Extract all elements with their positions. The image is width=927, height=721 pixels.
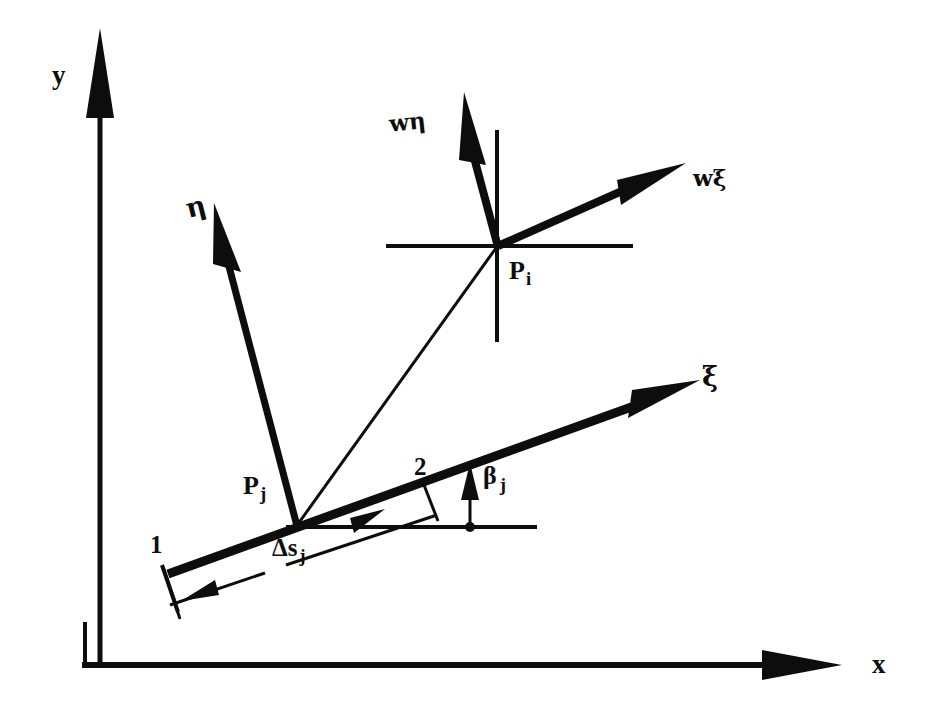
- point-pj-subscript: j: [259, 483, 266, 504]
- delta-s-arrowhead-left: [181, 580, 219, 601]
- y-axis-arrowhead: [86, 28, 114, 118]
- diagram-canvas: y x η ξ wη wξ Pi Pj 1 2 Δsj βj: [0, 0, 927, 721]
- w-xi-shaft: [498, 187, 631, 246]
- delta-s-subscript: j: [297, 546, 305, 566]
- point-pi-subscript: i: [525, 268, 531, 289]
- delta-s-arrowhead-right: [350, 509, 385, 533]
- delta-s-text: Δs: [272, 534, 297, 561]
- point-pj-letter: P: [243, 471, 259, 500]
- diagram-vector-layer: [0, 0, 927, 721]
- node-2-label: 2: [414, 454, 427, 479]
- x-axis-arrowhead: [762, 650, 842, 680]
- w-eta-vector-label: wη: [388, 108, 427, 135]
- y-axis-label: y: [52, 62, 66, 89]
- point-pi-label: Pi: [509, 258, 531, 289]
- w-xi-vector-group: [498, 163, 686, 246]
- panel-j-thick-segment: [168, 401, 648, 574]
- pi-local-axes-group: [386, 130, 633, 342]
- w-eta-arrowhead: [459, 92, 486, 165]
- beta-subscript: j: [497, 474, 506, 495]
- point-pj-label: Pj: [243, 473, 266, 504]
- node-1-extension-tick: [166, 576, 180, 619]
- x-axis-label: x: [872, 651, 886, 678]
- point-pi-letter: P: [509, 256, 525, 285]
- beta-angle-group: [461, 463, 479, 525]
- eta-arrowhead: [213, 203, 241, 272]
- w-xi-arrowhead: [617, 163, 686, 205]
- w-xi-vector-label: wξ: [693, 166, 726, 189]
- beta-angle-label: βj: [483, 463, 506, 494]
- delta-s-label: Δsj: [272, 535, 305, 565]
- w-eta-vector-group: [459, 92, 498, 247]
- xi-arrowhead: [628, 380, 700, 418]
- beta-letter: β: [483, 461, 497, 490]
- xi-axis-label: ξ: [702, 363, 718, 390]
- node-1-label: 1: [150, 532, 163, 557]
